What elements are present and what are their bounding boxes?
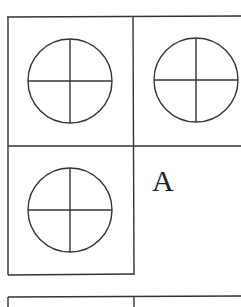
cell-label-a: A (152, 166, 174, 196)
circle-cross-icon (154, 38, 238, 122)
circle-cross-icon (28, 39, 112, 123)
grid-line-bottom-left (8, 274, 134, 275)
circle-cross-icon (28, 168, 112, 252)
grid-line-top (7, 16, 241, 17)
lower-frame-top (8, 296, 241, 297)
grid-diagram (0, 0, 241, 307)
